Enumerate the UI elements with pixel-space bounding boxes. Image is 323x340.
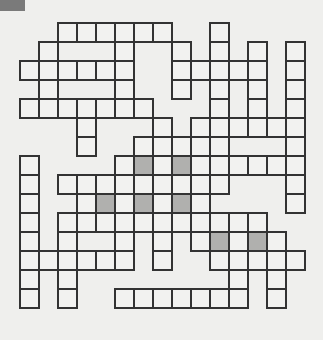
grid-cell[interactable]	[38, 250, 59, 271]
grid-cell[interactable]	[209, 250, 230, 271]
grid-cell[interactable]	[171, 79, 192, 100]
grid-cell[interactable]	[266, 269, 287, 290]
grid-cell[interactable]	[209, 117, 230, 138]
grid-cell[interactable]	[228, 212, 249, 233]
shaded-grid-cell[interactable]	[95, 193, 116, 214]
grid-cell[interactable]	[285, 136, 306, 157]
grid-cell[interactable]	[114, 60, 135, 81]
grid-cell[interactable]	[19, 193, 40, 214]
grid-cell[interactable]	[209, 22, 230, 43]
grid-cell[interactable]	[152, 288, 173, 309]
grid-cell[interactable]	[285, 60, 306, 81]
grid-cell[interactable]	[209, 41, 230, 62]
grid-cell[interactable]	[209, 174, 230, 195]
grid-cell[interactable]	[133, 174, 154, 195]
shaded-grid-cell[interactable]	[209, 231, 230, 252]
shaded-grid-cell[interactable]	[247, 231, 268, 252]
grid-cell[interactable]	[285, 117, 306, 138]
grid-cell[interactable]	[19, 269, 40, 290]
grid-cell[interactable]	[133, 22, 154, 43]
grid-cell[interactable]	[133, 212, 154, 233]
grid-cell[interactable]	[57, 174, 78, 195]
grid-cell[interactable]	[285, 193, 306, 214]
grid-cell[interactable]	[228, 250, 249, 271]
grid-cell[interactable]	[133, 98, 154, 119]
grid-cell[interactable]	[19, 212, 40, 233]
grid-cell[interactable]	[152, 212, 173, 233]
grid-cell[interactable]	[57, 269, 78, 290]
grid-cell[interactable]	[114, 174, 135, 195]
grid-cell[interactable]	[76, 22, 97, 43]
grid-cell[interactable]	[114, 231, 135, 252]
grid-cell[interactable]	[19, 288, 40, 309]
grid-cell[interactable]	[57, 98, 78, 119]
grid-cell[interactable]	[19, 231, 40, 252]
grid-cell[interactable]	[209, 79, 230, 100]
grid-cell[interactable]	[266, 288, 287, 309]
grid-cell[interactable]	[190, 60, 211, 81]
grid-cell[interactable]	[266, 250, 287, 271]
grid-cell[interactable]	[285, 41, 306, 62]
grid-cell[interactable]	[247, 212, 268, 233]
grid-cell[interactable]	[95, 22, 116, 43]
grid-cell[interactable]	[285, 79, 306, 100]
shaded-grid-cell[interactable]	[133, 193, 154, 214]
grid-cell[interactable]	[247, 79, 268, 100]
grid-cell[interactable]	[133, 136, 154, 157]
grid-cell[interactable]	[171, 212, 192, 233]
grid-cell[interactable]	[171, 174, 192, 195]
grid-cell[interactable]	[247, 250, 268, 271]
grid-cell[interactable]	[190, 288, 211, 309]
grid-cell[interactable]	[285, 174, 306, 195]
grid-cell[interactable]	[152, 231, 173, 252]
shaded-grid-cell[interactable]	[133, 155, 154, 176]
grid-cell[interactable]	[285, 250, 306, 271]
grid-cell[interactable]	[38, 60, 59, 81]
grid-cell[interactable]	[285, 155, 306, 176]
grid-cell[interactable]	[152, 136, 173, 157]
grid-cell[interactable]	[38, 79, 59, 100]
grid-cell[interactable]	[209, 155, 230, 176]
grid-cell[interactable]	[228, 231, 249, 252]
grid-cell[interactable]	[152, 193, 173, 214]
shaded-grid-cell[interactable]	[171, 155, 192, 176]
grid-cell[interactable]	[95, 60, 116, 81]
grid-cell[interactable]	[114, 22, 135, 43]
grid-cell[interactable]	[76, 193, 97, 214]
grid-cell[interactable]	[228, 155, 249, 176]
grid-cell[interactable]	[76, 212, 97, 233]
grid-cell[interactable]	[19, 60, 40, 81]
grid-cell[interactable]	[76, 250, 97, 271]
grid-cell[interactable]	[19, 155, 40, 176]
grid-cell[interactable]	[152, 117, 173, 138]
grid-cell[interactable]	[152, 22, 173, 43]
grid-cell[interactable]	[228, 60, 249, 81]
grid-cell[interactable]	[190, 231, 211, 252]
grid-cell[interactable]	[171, 136, 192, 157]
grid-cell[interactable]	[19, 250, 40, 271]
grid-cell[interactable]	[209, 288, 230, 309]
grid-cell[interactable]	[57, 60, 78, 81]
grid-cell[interactable]	[171, 288, 192, 309]
grid-cell[interactable]	[171, 41, 192, 62]
grid-cell[interactable]	[266, 117, 287, 138]
grid-cell[interactable]	[209, 136, 230, 157]
grid-cell[interactable]	[76, 174, 97, 195]
grid-cell[interactable]	[57, 212, 78, 233]
grid-cell[interactable]	[38, 98, 59, 119]
grid-cell[interactable]	[228, 117, 249, 138]
grid-cell[interactable]	[190, 136, 211, 157]
grid-cell[interactable]	[209, 212, 230, 233]
grid-cell[interactable]	[114, 98, 135, 119]
grid-cell[interactable]	[171, 60, 192, 81]
grid-cell[interactable]	[152, 155, 173, 176]
grid-cell[interactable]	[266, 155, 287, 176]
grid-cell[interactable]	[247, 41, 268, 62]
grid-cell[interactable]	[152, 174, 173, 195]
grid-cell[interactable]	[95, 98, 116, 119]
grid-cell[interactable]	[57, 22, 78, 43]
grid-cell[interactable]	[247, 155, 268, 176]
grid-cell[interactable]	[95, 212, 116, 233]
grid-cell[interactable]	[95, 174, 116, 195]
shaded-grid-cell[interactable]	[171, 193, 192, 214]
